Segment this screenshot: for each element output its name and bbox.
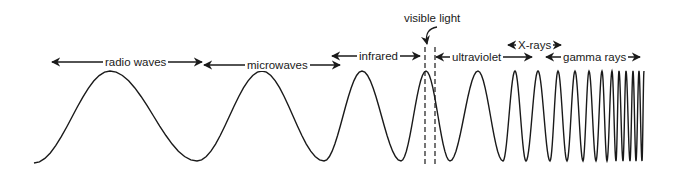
label-gamma-rays: gamma rays (561, 51, 628, 63)
label-x-rays: X-rays (516, 39, 553, 51)
label-microwaves: microwaves (245, 59, 310, 71)
waveform (34, 71, 644, 163)
spectrum-canvas (0, 0, 675, 175)
label-ultraviolet: ultraviolet (450, 51, 503, 63)
label-visible-light: visible light (402, 12, 462, 24)
visible-pointer-arrow (426, 27, 437, 44)
em-spectrum-diagram: radio waves microwaves infrared ultravio… (0, 0, 675, 175)
visible-light-marker (425, 27, 437, 165)
label-radio-waves: radio waves (103, 56, 168, 68)
label-infrared: infrared (357, 50, 400, 62)
